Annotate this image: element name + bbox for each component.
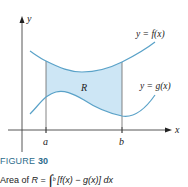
area-region: R	[32, 175, 39, 185]
x-axis-arrow-icon	[165, 128, 172, 133]
curve-label-f: y = f(x)	[135, 29, 165, 40]
area-between-curves-diagram: y x a b R y = f(x) y = g(x)	[0, 0, 188, 155]
tick-label-a: a	[43, 136, 48, 147]
integrand: [f(x) − g(x)] dx	[57, 175, 113, 185]
region-label: R	[80, 82, 87, 93]
area-formula: Area of R = ∫ b a [f(x) − g(x)] dx	[0, 169, 113, 187]
equals-sign: =	[41, 175, 46, 185]
upper-limit: b	[53, 176, 56, 182]
x-axis-label: x	[174, 124, 180, 135]
tick-label-b: b	[119, 136, 124, 147]
curve-label-g: y = g(x)	[139, 81, 171, 92]
figure-number: 30	[38, 156, 48, 166]
y-axis-label: y	[26, 13, 32, 24]
y-axis-arrow-icon	[20, 16, 25, 23]
figure-word: FIGURE	[0, 156, 35, 166]
figure-caption-title: FIGURE 30	[0, 156, 48, 166]
area-prefix: Area of	[0, 175, 29, 185]
